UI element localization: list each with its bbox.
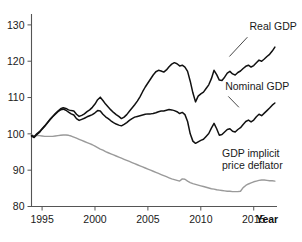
y-axis-tick-labels: 8090100110120130: [7, 19, 25, 213]
series-label-nominal-gdp: Nominal GDP: [225, 80, 289, 92]
x-tick-label: 2000: [83, 213, 107, 225]
x-axis-tick-labels: 19952000200520102015: [30, 213, 265, 225]
y-tick-label: 90: [13, 164, 25, 176]
series-label-real-gdp: Real GDP: [249, 20, 296, 32]
y-tick-label: 130: [7, 19, 25, 31]
x-tick-label: 1995: [30, 213, 54, 225]
axes-group: [28, 14, 278, 211]
tick-marks: [28, 25, 254, 211]
x-tick-label: 2005: [136, 213, 160, 225]
y-tick-label: 110: [8, 91, 25, 103]
x-tick-label: 2010: [189, 213, 213, 225]
gdp-index-chart: 8090100110120130 19952000200520102015 Re…: [0, 0, 302, 242]
y-tick-label: 100: [7, 128, 25, 140]
y-tick-label: 80: [13, 200, 25, 212]
series-label-deflator-line2: price deflator: [222, 159, 283, 171]
chart-canvas: 8090100110120130 19952000200520102015 Re…: [0, 0, 302, 242]
x-axis-title: Year: [256, 213, 278, 225]
leader-line-nominal-gdp: [228, 96, 239, 107]
leader-line-real-gdp: [229, 37, 247, 56]
series-label-deflator-line1: GDP implicit: [222, 147, 280, 159]
y-tick-label: 120: [7, 55, 25, 67]
